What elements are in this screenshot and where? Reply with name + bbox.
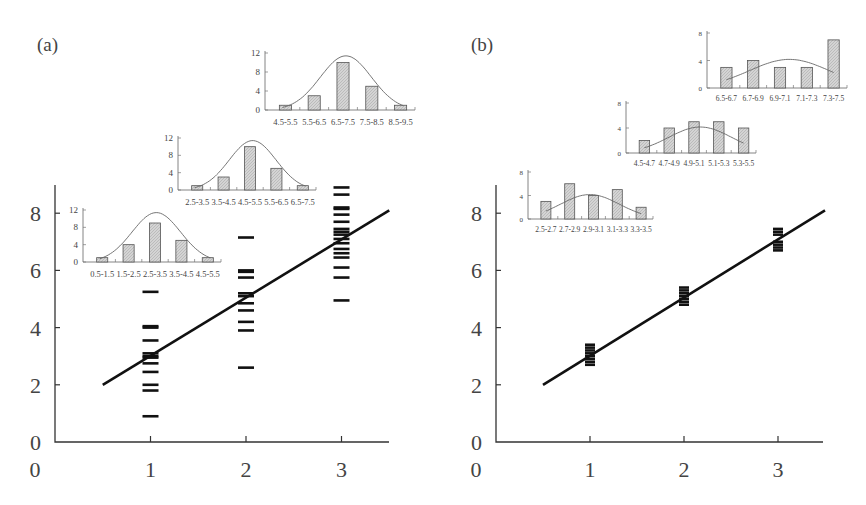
y-tick-label: 2 [30,373,41,398]
inset-x-label: 6.5-7.5 [291,197,315,207]
inset-bar [366,86,378,110]
inset-bar [395,105,407,110]
inset-x-label: 4.5-5.5 [273,117,297,127]
inset-x-label: 2.5-3.5 [143,269,167,279]
inset-histograms: 0482.5-2.72.7-2.92.9-3.13.1-3.33.3-3.504… [520,30,848,234]
inset-x-label: 3.1-3.3 [607,225,628,234]
inset-x-label: 7.3-7.5 [823,94,844,103]
inset-y-label: 8 [169,150,174,160]
inset-x-label: 3.3-3.5 [630,225,651,234]
y-tick-label: 8 [30,201,41,226]
inset-x-label: 4.7-4.9 [659,159,680,168]
inset-bar [149,223,160,262]
inset-bar [714,122,724,153]
inset-bar [279,105,291,110]
inset-bar [801,67,812,88]
inset-bar [774,67,785,88]
inset-y-label: 0 [74,257,79,267]
panel-b: (b) 024680123 0482.5-2.72.7-2.92.9-3.13.… [471,30,848,482]
inset-bar [218,177,229,190]
inset-y-label: 8 [520,169,524,177]
main-plot: 024680123 [30,185,390,482]
y-tick-label: 2 [471,373,482,398]
inset-x-label: 6.9-7.1 [769,94,790,103]
inset-x-label: 4.5-5.5 [238,197,262,207]
x-tick-label: 1 [145,457,156,482]
inset-histogram-1: 0482.5-2.72.7-2.92.9-3.13.1-3.33.3-3.5 [520,169,654,234]
inset-y-label: 12 [69,205,78,215]
inset-bar [176,240,187,262]
inset-y-label: 4 [256,86,261,96]
y-tick-label: 0 [30,430,41,455]
inset-y-label: 4 [169,168,174,178]
inset-x-label: 5.1-5.3 [708,159,729,168]
inset-x-label: 3.5-4.5 [212,197,236,207]
figure-canvas: (a) 024680123 048120.5-1.51.5-2.52.5-3.5… [0,0,866,505]
inset-y-label: 12 [164,133,173,143]
inset-bar [828,40,839,88]
inset-y-label: 8 [74,222,79,232]
inset-y-label: 8 [699,30,703,38]
inset-x-label: 6.7-6.9 [743,94,764,103]
inset-bar [689,122,699,153]
y-tick-label: 4 [30,316,41,341]
inset-bar [202,258,213,262]
inset-x-label: 2.7-2.9 [559,225,580,234]
y-tick-label: 0 [471,430,482,455]
inset-bar [244,147,255,190]
inset-bar [297,186,308,190]
inset-x-label: 5.5-6.5 [264,197,288,207]
inset-bar [748,61,759,89]
inset-x-label: 4.5-4.7 [634,159,655,168]
inset-y-label: 4 [74,240,79,250]
x-tick-label: 3 [773,457,784,482]
inset-x-label: 7.5-8.5 [360,117,384,127]
inset-bar [123,245,134,262]
inset-x-label: 4.9-5.1 [683,159,704,168]
inset-x-label: 3.5-4.5 [169,269,193,279]
inset-x-label: 4.5-5.5 [196,269,220,279]
inset-x-label: 7.1-7.3 [796,94,817,103]
inset-bar [541,201,551,219]
x-tick-label: 2 [679,457,690,482]
inset-bar [308,96,320,110]
inset-y-label: 8 [256,67,261,77]
x-tick-label: 2 [241,457,252,482]
inset-histogram-1: 048120.5-1.51.5-2.52.5-3.53.5-4.54.5-5.5 [69,205,221,279]
inset-histograms: 048120.5-1.51.5-2.52.5-3.53.5-4.54.5-5.5… [69,48,415,279]
inset-y-label: 0 [699,85,703,93]
inset-bar [589,196,599,220]
inset-x-label: 5.3-5.5 [733,159,754,168]
inset-x-label: 5.5-6.5 [302,117,326,127]
inset-y-label: 0 [256,105,261,115]
y-tick-label: 6 [30,258,41,283]
data-group-x1 [143,292,159,416]
inset-histogram-2: 048122.5-3.53.5-4.54.5-5.55.5-6.56.5-7.5 [164,133,316,207]
panel-label: (a) [37,34,58,56]
inset-y-label: 4 [699,58,703,66]
inset-histogram-3: 048124.5-5.55.5-6.56.5-7.57.5-8.58.5-9.5 [251,48,415,127]
regression-line [543,210,825,384]
inset-histogram-3: 0486.5-6.76.7-6.96.9-7.17.1-7.37.3-7.5 [699,30,848,103]
inset-bar [612,190,622,219]
inset-bar [192,186,203,190]
x-tick-label: 1 [585,457,596,482]
inset-x-label: 8.5-9.5 [389,117,413,127]
inset-x-label: 1.5-2.5 [117,269,141,279]
inset-x-label: 2.5-2.7 [535,225,556,234]
x-tick-label: 0 [30,457,41,482]
inset-histogram-2: 0484.5-4.74.7-4.94.9-5.15.1-5.35.3-5.5 [618,100,757,168]
inset-bar [664,128,674,153]
inset-y-label: 0 [169,185,174,195]
inset-y-label: 4 [618,125,622,133]
inset-x-label: 2.9-3.1 [583,225,604,234]
y-tick-label: 6 [471,258,482,283]
inset-bar [738,128,748,153]
inset-y-label: 4 [520,193,524,201]
inset-x-label: 0.5-1.5 [90,269,114,279]
inset-bar [271,168,282,190]
x-tick-label: 3 [336,457,347,482]
inset-y-label: 12 [251,48,260,58]
inset-x-label: 6.5-7.5 [331,117,355,127]
inset-x-label: 2.5-3.5 [185,197,209,207]
